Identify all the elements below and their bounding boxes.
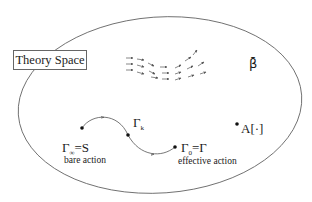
point-gamma-infinity: [80, 126, 84, 130]
point-gamma-k: [126, 133, 130, 137]
beta-bar-label: β̄: [249, 57, 257, 70]
gamma-infinity-symbol: Γ: [62, 140, 70, 155]
beta-vector-field: [126, 50, 206, 80]
gamma-k-subscript: k: [141, 124, 145, 132]
theory-space-diagram: [0, 0, 312, 202]
rg-trajectory-lower: [128, 135, 175, 154]
gamma-0-symbol: Γ: [181, 140, 189, 155]
a-functional-label: A[·]: [241, 122, 263, 135]
theory-space-ellipse: [12, 7, 308, 202]
gamma-infinity-label: Γ∞=S: [62, 141, 89, 154]
rg-trajectory-upper: [82, 117, 128, 135]
theory-space-text: Theory Space: [15, 53, 84, 68]
bare-action-caption: bare action: [64, 156, 106, 166]
theory-space-label: Theory Space: [13, 50, 87, 70]
gamma-0-label: Γ0=Γ: [181, 141, 207, 154]
gamma-k-label: Γk: [133, 116, 144, 129]
effective-action-caption: effective action: [178, 157, 237, 167]
point-a-functional: [235, 122, 239, 126]
gamma-0-equals: =Γ: [192, 140, 207, 155]
gamma-k-symbol: Γ: [133, 115, 141, 130]
gamma-infinity-equals: =S: [75, 140, 90, 155]
point-gamma-0: [173, 145, 177, 149]
